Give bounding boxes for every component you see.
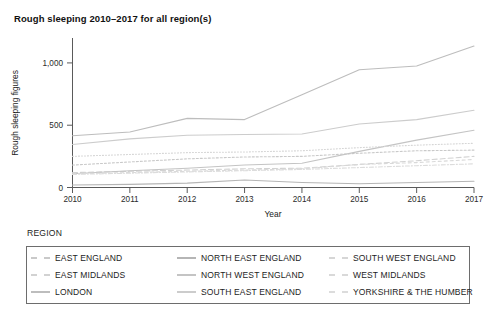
legend-item[interactable]: YORKSHIRE & THE HUMBER xyxy=(325,287,473,297)
chart-page: Rough sleeping 2010–2017 for all region(… xyxy=(0,0,496,315)
x-axis-title: Year xyxy=(265,209,282,219)
legend-item-label: YORKSHIRE & THE HUMBER xyxy=(353,287,473,297)
line-chart-svg: 05001,000 Rough sleeping figures 2010201… xyxy=(0,24,496,224)
legend-item-label: NORTH EAST ENGLAND xyxy=(201,253,302,263)
legend-swatch-icon xyxy=(329,291,348,293)
y-axis-title: Rough sleeping figures xyxy=(10,70,20,156)
legend-item-label: EAST MIDLANDS xyxy=(55,270,125,280)
legend-item[interactable]: NORTH WEST ENGLAND xyxy=(173,270,325,280)
x-tick-label: 2015 xyxy=(350,195,369,204)
x-axis: 20102011201220132014201520162017 Year xyxy=(63,188,483,220)
y-axis: 05001,000 Rough sleeping figures xyxy=(10,38,73,193)
legend-swatch-icon xyxy=(177,274,196,276)
page-title: Rough sleeping 2010–2017 for all region(… xyxy=(14,13,211,24)
x-tick-label: 2014 xyxy=(293,195,312,204)
plot-area: 05001,000 Rough sleeping figures 2010201… xyxy=(0,24,496,204)
x-tick-label: 2012 xyxy=(178,195,197,204)
y-axis-ticks: 05001,000 xyxy=(43,59,73,193)
series-line-south-west-england xyxy=(73,143,475,156)
series-line-north-east-england xyxy=(73,180,475,185)
legend-swatch-icon xyxy=(329,257,348,259)
legend-item[interactable]: EAST MIDLANDS xyxy=(27,270,173,280)
legend-item[interactable]: SOUTH WEST ENGLAND xyxy=(325,253,473,263)
y-tick-label: 0 xyxy=(58,184,63,193)
legend-item[interactable]: WEST MIDLANDS xyxy=(325,270,473,280)
legend-box: EAST ENGLANDNORTH EAST ENGLANDSOUTH WEST… xyxy=(26,246,470,304)
legend-grid: EAST ENGLANDNORTH EAST ENGLANDSOUTH WEST… xyxy=(27,247,469,303)
x-tick-label: 2016 xyxy=(408,195,427,204)
series-line-north-west-england xyxy=(73,130,475,174)
legend-heading: REGION xyxy=(27,228,62,238)
series-line-london xyxy=(73,46,475,136)
legend-item[interactable]: SOUTH EAST ENGLAND xyxy=(173,287,325,297)
legend-swatch-icon xyxy=(177,291,196,293)
legend-item[interactable]: NORTH EAST ENGLAND xyxy=(173,253,325,263)
x-tick-label: 2013 xyxy=(235,195,254,204)
legend-item-label: LONDON xyxy=(55,287,92,297)
legend-swatch-icon xyxy=(329,274,348,276)
legend-swatch-icon xyxy=(31,291,50,293)
x-tick-label: 2010 xyxy=(63,195,82,204)
legend-item-label: SOUTH WEST ENGLAND xyxy=(353,253,456,263)
legend-item[interactable]: EAST ENGLAND xyxy=(27,253,173,263)
x-tick-label: 2011 xyxy=(121,195,139,204)
y-tick-label: 500 xyxy=(49,121,63,130)
legend-item-label: NORTH WEST ENGLAND xyxy=(201,270,304,280)
x-tick-label: 2017 xyxy=(465,195,484,204)
x-axis-ticks: 20102011201220132014201520162017 xyxy=(63,188,483,205)
legend-item[interactable]: LONDON xyxy=(27,287,173,297)
legend-swatch-icon xyxy=(177,257,196,259)
legend-swatch-icon xyxy=(31,257,50,259)
legend-swatch-icon xyxy=(31,274,50,276)
y-tick-label: 1,000 xyxy=(43,59,64,68)
data-series-group xyxy=(73,46,475,185)
legend-item-label: WEST MIDLANDS xyxy=(353,270,426,280)
legend-item-label: EAST ENGLAND xyxy=(55,253,122,263)
legend-item-label: SOUTH EAST ENGLAND xyxy=(201,287,301,297)
series-line-south-east-england xyxy=(73,110,475,144)
